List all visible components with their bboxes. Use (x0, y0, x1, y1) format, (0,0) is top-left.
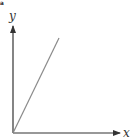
corner-label: a (0, 0, 4, 6)
y-axis-label: y (8, 9, 16, 23)
data-line (13, 38, 59, 133)
x-axis-label: x (123, 126, 130, 137)
diagram-canvas: a y x (0, 0, 133, 137)
